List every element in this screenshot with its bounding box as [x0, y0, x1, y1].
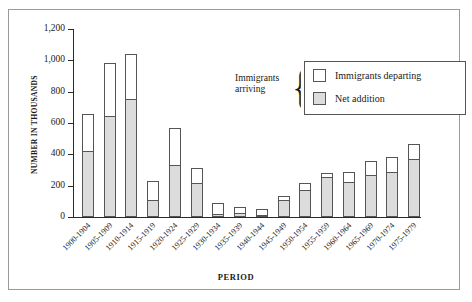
legend-label-net-addition: Net addition [335, 93, 385, 104]
x-axis-title: PERIOD [0, 272, 472, 282]
y-axis-tick-mark [68, 154, 74, 155]
bar-segment-net-addition[interactable] [213, 214, 223, 216]
legend-item-immigrants-departing: Immigrants departing [313, 69, 421, 82]
y-axis-tick-label: 600 [51, 118, 65, 128]
bar-segment-immigrants-departing[interactable] [256, 209, 268, 217]
bar-segment-net-addition[interactable] [170, 165, 180, 216]
bar-segment-immigrants-departing[interactable] [365, 161, 377, 217]
legend-arriving-line2: arriving [235, 83, 291, 94]
bar-segment-net-addition[interactable] [83, 151, 93, 216]
bar-group[interactable] [125, 29, 137, 217]
x-axis-line [73, 217, 421, 218]
bar-segment-immigrants-departing[interactable] [321, 173, 333, 217]
y-axis-tick-mark [68, 217, 74, 218]
bar-segment-immigrants-departing[interactable] [125, 54, 137, 217]
bar-segment-net-addition[interactable] [387, 172, 397, 216]
bar-segment-immigrants-departing[interactable] [104, 63, 116, 217]
bar-group[interactable] [104, 29, 116, 217]
bar-group[interactable] [365, 29, 377, 217]
bar-segment-immigrants-departing[interactable] [191, 168, 203, 217]
y-axis-tick-label: 0 [60, 212, 65, 222]
y-axis-tick-mark [68, 123, 74, 124]
y-axis-tick-label: 400 [51, 150, 65, 160]
bar-segment-net-addition[interactable] [126, 99, 136, 217]
legend-item-net-addition: Net addition [313, 92, 385, 105]
y-axis-tick-label: 800 [51, 87, 65, 97]
bar-segment-immigrants-departing[interactable] [299, 183, 311, 217]
bar-segment-net-addition[interactable] [148, 200, 158, 216]
legend-swatch-net-addition [313, 92, 326, 105]
bar-segment-net-addition[interactable] [344, 182, 354, 216]
y-axis-tick-mark [68, 29, 74, 30]
legend: Immigrants departing Net addition [304, 61, 466, 115]
y-axis-tick-mark [68, 186, 74, 187]
legend-label-immigrants-departing: Immigrants departing [335, 70, 421, 81]
bar-group[interactable] [408, 29, 420, 217]
bar-segment-immigrants-departing[interactable] [234, 207, 246, 217]
bar-segment-net-addition[interactable] [409, 159, 419, 216]
y-axis-tick-label: 1,200 [44, 24, 65, 34]
bar-segment-net-addition[interactable] [300, 190, 310, 216]
bar-segment-net-addition[interactable] [192, 183, 202, 216]
bar-group[interactable] [256, 29, 268, 217]
bar-segment-immigrants-departing[interactable] [212, 203, 224, 217]
bar-group[interactable] [386, 29, 398, 217]
plot-area: 02004006008001,0001,200 1900-19041905-19… [73, 29, 421, 217]
bar-group[interactable] [321, 29, 333, 217]
y-axis-tick-label: 200 [51, 181, 65, 191]
bar-group[interactable] [299, 29, 311, 217]
legend-arriving-label: Immigrants arriving [235, 72, 291, 94]
legend-arriving-line1: Immigrants [235, 72, 291, 83]
bar-segment-net-addition[interactable] [257, 215, 267, 216]
bar-group[interactable] [343, 29, 355, 217]
legend-brace-icon: { [292, 64, 301, 112]
bar-segment-immigrants-departing[interactable] [386, 157, 398, 217]
y-axis-tick-mark [68, 60, 74, 61]
bar-segment-net-addition[interactable] [279, 200, 289, 216]
bar-segment-immigrants-departing[interactable] [169, 128, 181, 217]
y-axis-title: NUMBER IN THOUSANDS [27, 60, 41, 190]
bar-segment-immigrants-departing[interactable] [408, 144, 420, 217]
bar-group[interactable] [191, 29, 203, 217]
bar-segment-immigrants-departing[interactable] [82, 114, 94, 217]
figure-frame: NUMBER IN THOUSANDS 02004006008001,0001,… [8, 9, 460, 290]
legend-swatch-immigrants-departing [313, 69, 326, 82]
bar-segment-immigrants-departing[interactable] [343, 172, 355, 217]
bar-segment-net-addition[interactable] [235, 213, 245, 216]
bar-group[interactable] [82, 29, 94, 217]
bar-group[interactable] [147, 29, 159, 217]
y-axis-tick-mark [68, 92, 74, 93]
bar-segment-net-addition[interactable] [105, 116, 115, 216]
bar-group[interactable] [169, 29, 181, 217]
bar-group[interactable] [212, 29, 224, 217]
bar-segment-net-addition[interactable] [366, 175, 376, 216]
bar-segment-immigrants-departing[interactable] [147, 181, 159, 217]
bar-group[interactable] [234, 29, 246, 217]
bar-segment-net-addition[interactable] [322, 177, 332, 216]
y-axis-tick-label: 1,000 [44, 56, 65, 66]
bar-group[interactable] [278, 29, 290, 217]
bar-segment-immigrants-departing[interactable] [278, 196, 290, 217]
